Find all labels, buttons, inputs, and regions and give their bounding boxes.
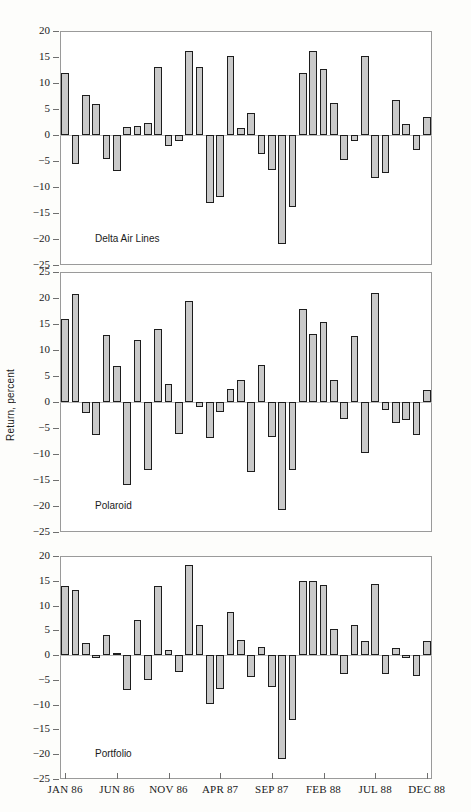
bar (175, 655, 183, 672)
bar (382, 135, 390, 173)
bar (154, 329, 162, 402)
bar (103, 635, 111, 655)
y-axis-tick-label: −10 (12, 448, 50, 459)
bar (309, 581, 317, 655)
bar (330, 629, 338, 655)
y-axis-tick (53, 556, 59, 557)
bar (320, 322, 328, 402)
bar (227, 56, 235, 135)
bar (196, 67, 204, 135)
y-axis-tick (53, 83, 59, 84)
y-axis-tick (53, 705, 59, 706)
y-axis-tick-label: −5 (12, 422, 50, 433)
y-axis-tick-label: 15 (12, 318, 50, 329)
y-axis-tick (53, 265, 59, 266)
bar (330, 380, 338, 402)
x-axis-tick (272, 773, 273, 779)
y-axis-tick-label: 10 (12, 600, 50, 611)
bar (154, 586, 162, 655)
bar (351, 336, 359, 402)
x-axis-tick (324, 773, 325, 779)
bar (320, 585, 328, 655)
bar (134, 620, 142, 655)
bar (227, 389, 235, 402)
y-axis-tick (53, 161, 59, 162)
y-axis-tick (53, 57, 59, 58)
bar (413, 655, 421, 676)
y-axis-tick (53, 324, 59, 325)
bar (382, 655, 390, 674)
bar (423, 641, 431, 655)
bar (402, 655, 410, 657)
bar (227, 612, 235, 656)
bar (299, 309, 307, 402)
bar (402, 402, 410, 420)
y-axis-tick-label: 20 (12, 550, 50, 561)
bar (82, 402, 90, 413)
x-axis-tick (220, 773, 221, 779)
y-axis-tick-label: −5 (12, 674, 50, 685)
bar (382, 402, 390, 410)
bar (61, 586, 69, 655)
bar (289, 402, 297, 470)
bar (144, 123, 152, 135)
bar (268, 402, 276, 437)
bar (299, 581, 307, 655)
y-axis-tick (53, 109, 59, 110)
bar (320, 69, 328, 135)
bar (216, 402, 224, 412)
bar (61, 73, 69, 135)
y-axis-tick-label: −10 (12, 181, 50, 192)
bar (113, 653, 121, 655)
bar (268, 135, 276, 170)
y-axis-tick (53, 350, 59, 351)
y-axis-tick-label: 5 (12, 103, 50, 114)
y-axis-tick (53, 532, 59, 533)
bar (361, 56, 369, 135)
bar (278, 402, 286, 510)
bar (123, 127, 131, 135)
bar (247, 113, 255, 135)
y-axis-tick (53, 506, 59, 507)
y-axis-tick-label: 10 (12, 344, 50, 355)
bar (413, 402, 421, 435)
y-axis-tick (53, 630, 59, 631)
bar (82, 95, 90, 135)
y-axis-tick (53, 428, 59, 429)
y-axis-tick (53, 729, 59, 730)
bar (340, 135, 348, 160)
bar (72, 294, 80, 402)
y-axis-tick-label: −15 (12, 207, 50, 218)
y-axis-tick-label: 10 (12, 77, 50, 88)
x-axis-tick (65, 773, 66, 779)
y-axis-tick-label: 20 (12, 292, 50, 303)
y-axis-tick (53, 779, 59, 780)
bar (237, 640, 245, 655)
bar (392, 402, 400, 423)
y-axis-tick (53, 376, 59, 377)
bar (72, 590, 80, 655)
bar (103, 135, 111, 159)
x-axis-tick (375, 773, 376, 779)
bar (185, 565, 193, 655)
bar (413, 135, 421, 150)
bar (258, 647, 266, 655)
bar (216, 135, 224, 197)
bar (123, 402, 131, 485)
bar (165, 650, 173, 655)
x-axis-tick (117, 773, 118, 779)
bar (196, 625, 204, 655)
zero-line (60, 655, 432, 656)
bar (61, 319, 69, 402)
bar (72, 135, 80, 164)
bar (123, 655, 131, 690)
bar (268, 655, 276, 687)
y-axis-tick-label: 25 (12, 266, 50, 277)
bar (278, 135, 286, 244)
y-axis-tick (53, 655, 59, 656)
y-axis-tick (53, 31, 59, 32)
bar (289, 135, 297, 207)
bar (237, 380, 245, 402)
bar (144, 402, 152, 470)
y-axis-tick (53, 239, 59, 240)
